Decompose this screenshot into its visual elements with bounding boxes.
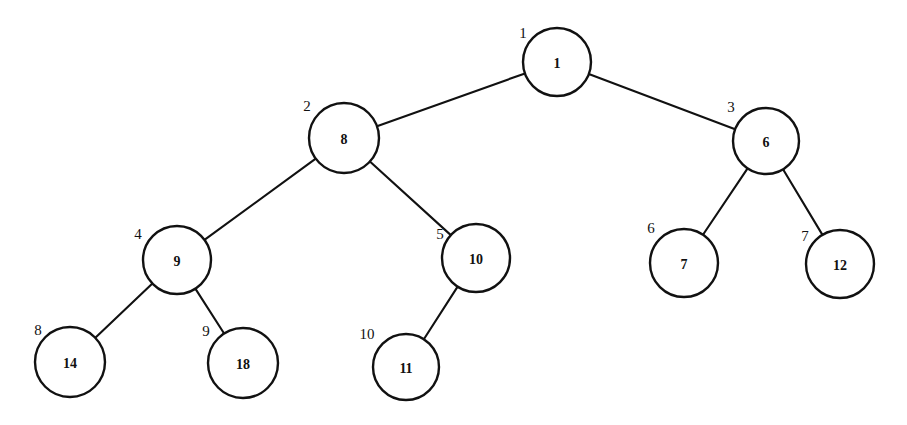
tree-edge: [424, 287, 458, 340]
node-index-label: 5: [436, 226, 444, 242]
node-value: 8: [341, 132, 348, 147]
node-index-label: 2: [303, 98, 311, 114]
node-value: 18: [236, 357, 250, 372]
node-index-label: 9: [202, 323, 210, 339]
tree-edge: [204, 159, 315, 240]
node-value: 14: [63, 356, 77, 371]
node-index-label: 8: [34, 322, 42, 338]
edges-group: [95, 73, 822, 339]
node-value: 7: [681, 257, 688, 272]
tree-diagram-canvas: 11826394105761271481891110: [0, 0, 907, 425]
tree-edge: [377, 73, 525, 126]
node-index-label: 1: [519, 25, 527, 41]
tree-node[interactable]: 63: [727, 99, 799, 174]
nodes-group: 11826394105761271481891110: [34, 25, 874, 400]
node-index-label: 4: [134, 226, 142, 242]
tree-node[interactable]: 1110: [360, 326, 440, 400]
node-value: 6: [763, 135, 770, 150]
node-value: 1: [554, 56, 561, 71]
node-index-label: 3: [727, 99, 735, 115]
tree-node[interactable]: 82: [303, 98, 379, 173]
node-value: 10: [469, 252, 483, 267]
tree-node[interactable]: 94: [134, 226, 211, 294]
node-value: 12: [833, 258, 847, 273]
tree-node[interactable]: 127: [801, 228, 874, 298]
tree-node[interactable]: 105: [436, 224, 510, 292]
tree-edge: [589, 74, 735, 129]
tree-node[interactable]: 76: [647, 220, 718, 297]
tree-edge: [95, 283, 152, 337]
tree-edge: [370, 162, 451, 236]
tree-edge: [783, 169, 822, 235]
tree-diagram-svg: 11826394105761271481891110: [0, 0, 907, 425]
node-index-label: 6: [647, 220, 655, 236]
node-value: 11: [399, 361, 412, 376]
tree-edge: [703, 168, 748, 234]
tree-node[interactable]: 148: [34, 322, 105, 397]
tree-node[interactable]: 11: [519, 25, 591, 96]
tree-node[interactable]: 189: [202, 323, 278, 398]
node-index-label: 10: [360, 326, 375, 342]
node-index-label: 7: [801, 228, 809, 244]
node-value: 9: [174, 254, 181, 269]
